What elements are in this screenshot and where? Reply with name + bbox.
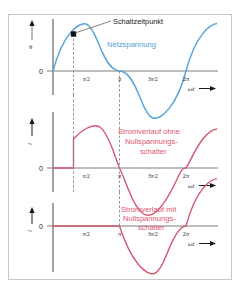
zero-label-current-with: 0 [39, 223, 43, 230]
chart-voltage: u 0 Schaltzeitpunkt Netzspannung π/2 π 3… [26, 17, 218, 118]
stromverlauf-mit-line1: Stromverlauf mit [121, 205, 177, 214]
y-axis-arrow-current-with [29, 207, 34, 224]
mask-bottom [0, 281, 241, 289]
x-axis-arrow-current-with [199, 241, 216, 246]
mask-right [232, 0, 241, 289]
tick-pi: π [118, 75, 122, 82]
x-axis-label-current-with: ωt [188, 240, 195, 247]
netzspannung-label: Netzspannung [107, 40, 156, 49]
tick-2pi: 2π [183, 172, 190, 179]
y-axis-arrow-voltage [29, 20, 34, 40]
y-axis-arrow-current-without [29, 118, 34, 136]
x-axis-label-current-without: ωt [188, 182, 195, 189]
mask-top [0, 0, 241, 14]
tick-pi-over-2-num: π/2 [83, 76, 90, 82]
stromverlauf-ohne-line1: Stromverlauf ohne [118, 127, 180, 136]
tick-3pi-over-2: 3π/2 [148, 76, 158, 82]
switch-instant-marker [71, 31, 76, 36]
chart-current-without: i 0 Stromverlauf ohne Nullspannungs- sch… [26, 95, 218, 215]
tick-pi-over-2: π/2 [83, 173, 90, 179]
stromverlauf-mit-line2: Nullspannungs- [123, 214, 176, 223]
schaltzeitpunkt-label: Schaltzeitpunkt [113, 17, 163, 26]
x-ticks-voltage: π/2 π 3π/2 2π [83, 75, 190, 82]
tick-2pi: 2π [183, 230, 190, 237]
stromverlauf-ohne-line2: Nullspannungs- [125, 137, 178, 146]
y-axis-label-voltage: u [26, 45, 34, 49]
zero-label-current-without: 0 [39, 165, 43, 172]
y-axis-label-current-without: i [26, 143, 34, 145]
tick-3pi-over-2: 3π/2 [148, 231, 158, 237]
zero-label-voltage: 0 [39, 68, 43, 75]
figure-canvas: u 0 Schaltzeitpunkt Netzspannung π/2 π 3… [0, 0, 241, 289]
x-ticks-current-with: π/2 π 3π/2 2π [83, 230, 190, 237]
tick-3pi-over-2: 3π/2 [148, 173, 158, 179]
chart-current-with: i 0 Stromverlauf mit Nullspannungs- scha… [26, 179, 218, 274]
mask-left [0, 0, 8, 289]
y-axis-label-current-with: i [26, 230, 34, 232]
tick-2pi: 2π [183, 75, 190, 82]
x-axis-arrow-voltage [199, 86, 216, 91]
x-ticks-current-without: π/2 π 3π/2 2π [83, 172, 190, 179]
tick-pi-over-2: π/2 [83, 231, 90, 237]
stromverlauf-ohne-line3: schalter [140, 147, 167, 156]
x-axis-label-voltage: ωt [188, 85, 195, 92]
